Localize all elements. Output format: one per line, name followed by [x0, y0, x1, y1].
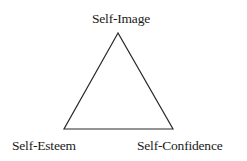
vertex-label-self-image: Self-Image: [92, 12, 150, 26]
triangle-diagram: Self-Image Self-Esteem Self-Confidence: [0, 0, 247, 161]
triangle-outline: [64, 33, 173, 129]
vertex-label-self-esteem: Self-Esteem: [12, 139, 76, 153]
vertex-label-self-confidence: Self-Confidence: [137, 139, 222, 153]
